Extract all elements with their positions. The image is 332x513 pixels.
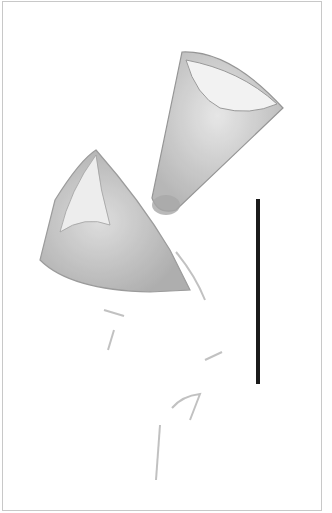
- upper-lorica: [152, 52, 283, 215]
- specimen-illustration: [0, 0, 332, 513]
- scale-bar: [256, 199, 260, 384]
